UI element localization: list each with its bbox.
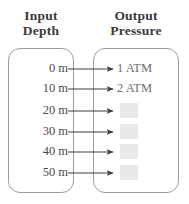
depth-label: 50 m — [8, 166, 68, 179]
depth-label: 10 m — [8, 82, 68, 95]
input-heading-line2: Depth — [8, 23, 74, 38]
depth-label: 20 m — [8, 104, 68, 117]
depth-pressure-diagram: Input Depth Output Pressure 0 m1 ATM10 m… — [0, 0, 189, 204]
output-heading-line1: Output — [93, 8, 179, 23]
pressure-value-blank — [120, 165, 138, 180]
pressure-value: 2 ATM — [117, 82, 152, 95]
output-column-heading: Output Pressure — [93, 8, 179, 38]
depth-label: 40 m — [8, 145, 68, 158]
pressure-value-blank — [120, 124, 138, 139]
depth-label: 30 m — [8, 125, 68, 138]
pressure-value-blank — [120, 144, 138, 159]
pressure-value: 1 ATM — [117, 62, 152, 75]
pressure-value-blank — [120, 103, 138, 118]
output-heading-line2: Pressure — [93, 23, 179, 38]
depth-label: 0 m — [8, 62, 68, 75]
input-heading-line1: Input — [8, 8, 74, 23]
input-column-heading: Input Depth — [8, 8, 74, 38]
